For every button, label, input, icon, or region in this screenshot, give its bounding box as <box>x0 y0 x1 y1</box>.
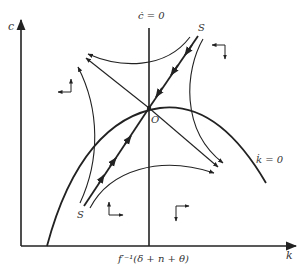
origin-label: O <box>151 114 159 125</box>
saddle-upper-label: S <box>198 22 205 33</box>
c-dot-zero-label: ċ = 0 <box>138 10 165 21</box>
x-tick-label: f′⁻¹(δ + n + θ) <box>117 253 189 264</box>
direction-up-left-icon <box>58 79 71 92</box>
k-axis-end-label: k <box>286 249 293 262</box>
saddle-lower-label: S <box>77 209 84 220</box>
direction-left-down-icon <box>212 45 225 59</box>
k-dot-zero-label-visible: k̇ = 0 <box>256 154 284 165</box>
y-axis-label: c <box>8 20 14 33</box>
direction-up-right-icon <box>109 202 123 215</box>
k-dot-zero-locus <box>47 107 266 246</box>
direction-right-down-icon <box>176 206 189 221</box>
saddle-path <box>84 36 198 206</box>
phase-diagram: c k k k k k k ċ = 0 k̇ = 0 k̇ = 0 O S S … <box>0 0 308 271</box>
steady-state-point <box>147 106 151 110</box>
axes <box>21 20 296 246</box>
